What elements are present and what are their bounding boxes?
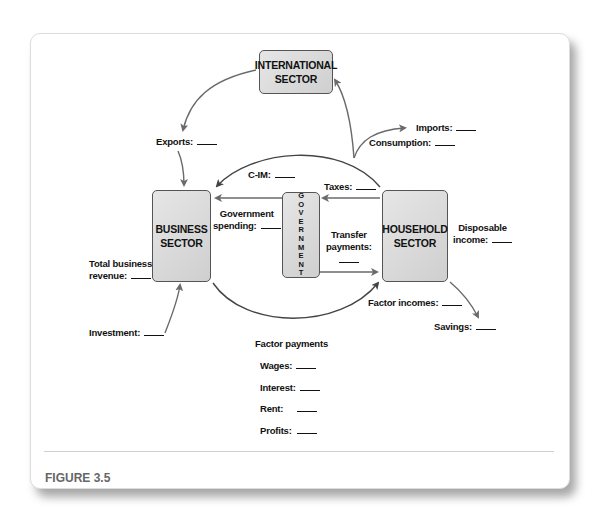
gov-spending-line1: Government — [213, 208, 281, 220]
factor-rent: Rent: — [260, 403, 317, 415]
answer-blank[interactable] — [297, 404, 317, 412]
exports-label: Exports: — [156, 136, 217, 148]
disposable-income-label: Disposable income: — [453, 222, 512, 247]
exports-text: Exports: — [156, 136, 193, 147]
c-im-text: C-IM: — [248, 169, 271, 180]
factor-interest: Interest: — [260, 382, 320, 394]
answer-blank[interactable] — [131, 271, 151, 279]
profits-text: Profits: — [260, 425, 293, 437]
answer-blank[interactable] — [476, 322, 496, 330]
international-line1: INTERNATIONAL — [255, 58, 337, 72]
factor-payments-title: Factor payments — [255, 338, 328, 350]
factor-profits: Profits: — [260, 425, 317, 437]
answer-blank[interactable] — [456, 123, 476, 131]
government-spending-label: Government spending: — [213, 208, 281, 233]
factor-wages: Wages: — [260, 360, 316, 372]
taxes-label: Taxes: — [324, 181, 376, 193]
caption-divider — [44, 451, 554, 452]
household-sector-box: HOUSEHOLD SECTOR — [382, 190, 448, 282]
answer-blank[interactable] — [492, 235, 512, 243]
factor-incomes-text: Factor incomes: — [368, 297, 438, 308]
business-line2: SECTOR — [160, 236, 202, 250]
answer-blank[interactable] — [144, 328, 164, 336]
wages-text: Wages: — [260, 360, 292, 371]
answer-blank[interactable] — [197, 137, 217, 145]
answer-blank[interactable] — [296, 361, 316, 369]
rent-text: Rent: — [260, 403, 293, 415]
savings-label: Savings: — [434, 321, 496, 333]
total-rev-line2: revenue: — [89, 270, 127, 281]
imports-text: Imports: — [416, 122, 452, 133]
gov-letter: T — [299, 269, 303, 278]
figure-caption: FIGURE 3.5 — [45, 471, 110, 485]
business-line1: BUSINESS — [155, 222, 207, 236]
answer-blank[interactable] — [275, 170, 295, 178]
government-box: G O V E R N M E N T — [282, 192, 320, 278]
answer-blank[interactable] — [261, 221, 281, 229]
consumption-label: Consumption: — [369, 137, 455, 149]
factor-incomes-label: Factor incomes: — [368, 297, 462, 309]
total-business-revenue-label: Total business revenue: — [89, 258, 152, 283]
taxes-text: Taxes: — [324, 181, 352, 192]
transfer-line2: payments: — [326, 241, 372, 253]
gov-spending-line2: spending: — [213, 220, 257, 231]
business-sector-box: BUSINESS SECTOR — [152, 190, 211, 282]
answer-blank[interactable] — [297, 426, 317, 434]
answer-blank[interactable] — [442, 298, 462, 306]
answer-blank[interactable] — [356, 182, 376, 190]
imports-label: Imports: — [416, 122, 476, 134]
disposable-line1: Disposable — [453, 222, 512, 234]
answer-blank[interactable] — [435, 138, 455, 146]
savings-text: Savings: — [434, 321, 472, 332]
total-rev-line1: Total business — [89, 258, 152, 270]
consumption-text: Consumption: — [369, 137, 431, 148]
investment-label: Investment: — [89, 327, 164, 339]
c-im-label: C-IM: — [248, 169, 295, 181]
household-line1: HOUSEHOLD — [382, 222, 447, 236]
international-line2: SECTOR — [275, 72, 317, 86]
transfer-line1: Transfer — [326, 229, 372, 241]
interest-text: Interest: — [260, 382, 296, 393]
transfer-payments-label: Transfer payments: — [326, 229, 372, 266]
investment-text: Investment: — [89, 327, 140, 338]
answer-blank[interactable] — [339, 255, 359, 263]
household-line2: SECTOR — [394, 236, 436, 250]
answer-blank[interactable] — [300, 383, 320, 391]
international-sector-box: INTERNATIONAL SECTOR — [259, 50, 333, 94]
disposable-line2: income: — [453, 234, 488, 245]
